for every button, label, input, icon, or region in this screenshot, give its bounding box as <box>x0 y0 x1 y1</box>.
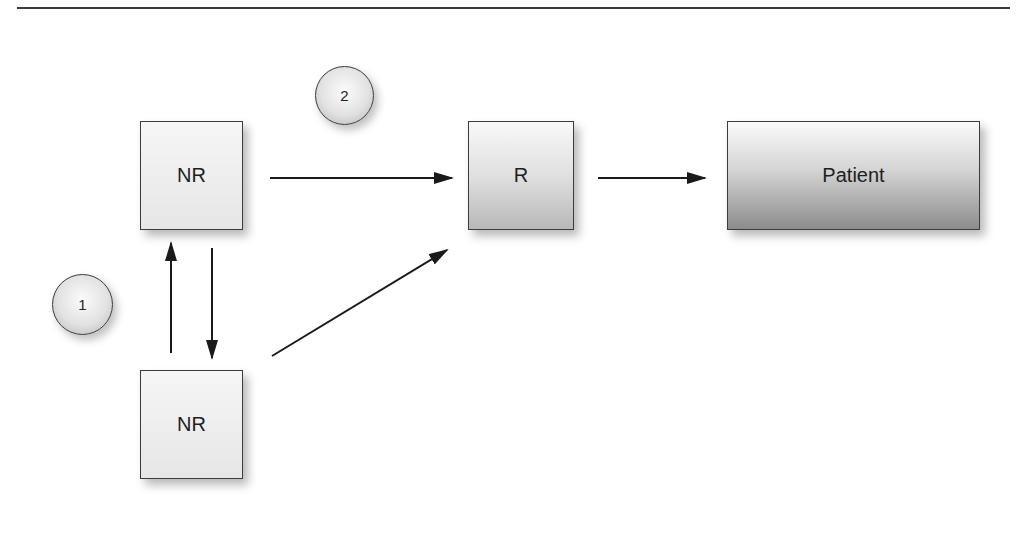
marker-2-label: 2 <box>340 87 348 104</box>
node-nr-top-label: NR <box>177 164 206 187</box>
node-patient-label: Patient <box>822 164 884 187</box>
node-patient: Patient <box>727 121 980 230</box>
node-nr-bottom: NR <box>140 370 243 479</box>
node-r-label: R <box>514 164 528 187</box>
node-nr-top: NR <box>140 121 243 230</box>
marker-1-label: 1 <box>78 296 86 313</box>
marker-circle-1: 1 <box>52 274 113 335</box>
node-r: R <box>468 121 574 230</box>
arrow-nr-bottom-to-r <box>272 250 447 356</box>
marker-circle-2: 2 <box>315 66 374 125</box>
node-nr-bottom-label: NR <box>177 413 206 436</box>
